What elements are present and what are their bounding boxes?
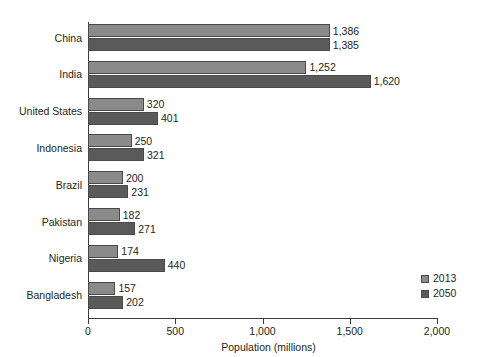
legend-item-2013: 2013: [421, 271, 456, 286]
bar-pakistan-2050: [88, 222, 135, 235]
bar-value-india-2013: 1,252: [309, 61, 335, 73]
x-tick-500: [175, 319, 176, 324]
bar-value-indonesia-2013: 250: [135, 135, 153, 147]
bar-value-nigeria-2050: 440: [168, 259, 186, 271]
bar-value-china-2013: 1,386: [333, 25, 359, 37]
bar-india-2050: [88, 75, 371, 88]
x-axis-title-text: Population (millions): [175, 341, 316, 353]
bar-value-united-states-2050: 401: [161, 112, 179, 124]
bar-value-india-2050: 1,620: [374, 75, 400, 87]
category-label-united-states: United States: [19, 105, 82, 117]
x-tick-0: [88, 319, 89, 324]
bar-indonesia-2050: [88, 148, 144, 161]
category-label-brazil: Brazil: [56, 179, 82, 191]
bar-value-pakistan-2013: 182: [123, 209, 141, 221]
bar-bangladesh-2050: [88, 296, 123, 309]
bar-value-indonesia-2050: 321: [147, 149, 165, 161]
bar-nigeria-2050: [88, 259, 165, 272]
x-tick-label-500: 500: [166, 325, 184, 337]
bar-nigeria-2013: [88, 245, 118, 258]
bar-value-brazil-2013: 200: [126, 172, 144, 184]
category-label-india: India: [59, 68, 82, 80]
legend-swatch-2013-icon: [421, 275, 429, 283]
x-tick-1000: [263, 319, 264, 324]
legend-label-2013: 2013: [433, 273, 456, 284]
bar-india-2013: [88, 61, 306, 74]
x-tick-label-1000: 1,000: [249, 325, 275, 337]
bar-united-states-2050: [88, 112, 158, 125]
legend-swatch-2050-icon: [421, 290, 429, 298]
bar-bangladesh-2013: [88, 282, 115, 295]
bar-pakistan-2013: [88, 208, 120, 221]
legend-item-2050: 2050: [421, 286, 456, 301]
x-tick-label-1500: 1,500: [337, 325, 363, 337]
category-label-china: China: [55, 32, 82, 44]
x-tick-1500: [350, 319, 351, 324]
bar-value-united-states-2013: 320: [147, 98, 165, 110]
legend-label-2050: 2050: [433, 288, 456, 299]
population-bar-chart: 05001,0001,5002,000 Population (millions…: [0, 0, 491, 357]
category-label-pakistan: Pakistan: [42, 216, 82, 228]
bar-china-2050: [88, 38, 330, 51]
category-label-indonesia: Indonesia: [36, 142, 82, 154]
category-label-bangladesh: Bangladesh: [27, 289, 82, 301]
bar-brazil-2050: [88, 185, 128, 198]
legend: 2013 2050: [421, 271, 456, 301]
bar-value-nigeria-2013: 174: [121, 245, 139, 257]
bar-value-pakistan-2050: 271: [138, 223, 156, 235]
bar-brazil-2013: [88, 171, 123, 184]
x-tick-2000: [437, 319, 438, 324]
bar-indonesia-2013: [88, 134, 132, 147]
category-label-nigeria: Nigeria: [49, 252, 82, 264]
x-tick-label-0: 0: [85, 325, 91, 337]
bar-value-china-2050: 1,385: [333, 39, 359, 51]
bar-value-brazil-2050: 231: [131, 186, 149, 198]
bar-value-bangladesh-2013: 157: [118, 282, 136, 294]
x-tick-label-2000: 2,000: [424, 325, 450, 337]
bar-value-bangladesh-2050: 202: [126, 296, 144, 308]
bar-united-states-2013: [88, 98, 144, 111]
x-axis-title: Population (millions): [0, 341, 491, 353]
bar-china-2013: [88, 24, 330, 37]
